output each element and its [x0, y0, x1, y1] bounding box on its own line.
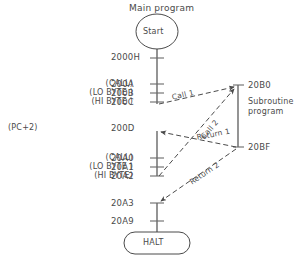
program-flow-diagram: Main program Start HALT (PC+2) (CALL) (L…: [0, 0, 304, 259]
address-2000H: 2000H: [111, 52, 140, 62]
pc-plus-2-label: (PC+2): [8, 123, 38, 132]
halt-node-label: HALT: [143, 238, 164, 247]
address-20B0: 20B0: [248, 80, 271, 90]
address-20A9: 20A9: [111, 216, 134, 226]
start-node-label: Start: [143, 27, 164, 36]
address-200C: 200C: [111, 97, 134, 107]
main-program-title: Main program: [129, 3, 194, 13]
address-200D: 200D: [111, 123, 135, 133]
address-20A3: 20A3: [111, 198, 134, 208]
address-20A2: 20A2: [111, 171, 134, 181]
address-20BF: 20BF: [248, 142, 270, 152]
diagram-canvas: [0, 0, 304, 259]
subroutine-title-line-2: program: [248, 107, 284, 117]
subroutine-title-line-1: Subroutine: [248, 97, 294, 107]
